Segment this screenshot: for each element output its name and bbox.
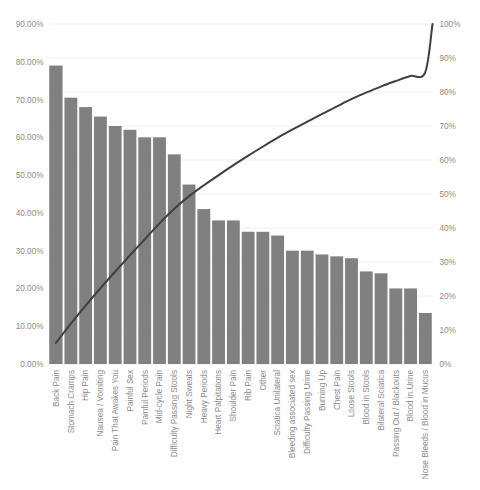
category-label: Night Sweats [185, 370, 194, 418]
y-axis-tick-label: 10.00% [16, 322, 44, 331]
category-label: Heavy Periods [200, 370, 209, 423]
bar [197, 209, 210, 364]
category-label: Painful Periods [141, 370, 150, 425]
bar [374, 273, 387, 364]
bar [212, 220, 225, 364]
category-label: Heart Palpitations [214, 370, 223, 435]
y2-axis-tick-label: 0% [440, 360, 452, 369]
category-label: Bleeding associated sex [288, 370, 297, 458]
bar [241, 232, 254, 364]
y-axis-tick-label: 80.00% [16, 58, 44, 67]
pareto-chart: 0.00%10.00%20.00%30.00%40.00%50.00%60.00… [0, 0, 480, 490]
y-axis-tick-label: 50.00% [16, 171, 44, 180]
y-axis-tick-label: 30.00% [16, 247, 44, 256]
y-axis-tick-label: 90.00% [16, 20, 44, 29]
category-label: Nausea / Vomiting [96, 370, 105, 437]
bar [330, 256, 343, 364]
y2-axis-tick-label: 40% [440, 224, 456, 233]
category-label: Other [259, 370, 268, 391]
bar [300, 251, 313, 364]
y2-axis-tick-label: 50% [440, 190, 456, 199]
category-label: Shoulder Pain [229, 370, 238, 422]
category-label: Pain That Awakes You [111, 370, 120, 452]
category-label: Mid-cycle Pain [155, 370, 164, 424]
y2-axis-tick-label: 80% [440, 88, 456, 97]
category-label: Rib Pain [244, 370, 253, 401]
bar [359, 271, 372, 364]
y2-axis-tick-label: 60% [440, 156, 456, 165]
y-axis-tick-label: 70.00% [16, 96, 44, 105]
category-label: Chest Pain [333, 370, 342, 410]
y2-axis-tick-label: 10% [440, 326, 456, 335]
bar [138, 137, 151, 364]
bar [286, 251, 299, 364]
category-label: Blood in Urine [406, 370, 415, 422]
bar [167, 154, 180, 364]
y2-axis-tick-label: 100% [440, 20, 461, 29]
category-label: Stomach Cramps [67, 370, 76, 433]
bar [94, 117, 107, 364]
category-label: Burning Up [318, 370, 327, 411]
category-label: Difficulty Passing Urine [303, 370, 312, 454]
bar [345, 258, 358, 364]
bar [182, 185, 195, 364]
category-label: Blood in Stools [362, 370, 371, 425]
bar [256, 232, 269, 364]
y2-axis-tick-label: 70% [440, 122, 456, 131]
category-label: Loose Stools [347, 370, 356, 417]
bar [226, 220, 239, 364]
bar [79, 107, 92, 364]
y-axis-tick-label: 20.00% [16, 284, 44, 293]
category-label: Passing Out / Blackouts [392, 370, 401, 457]
bar [389, 288, 402, 364]
y-axis-tick-label: 60.00% [16, 133, 44, 142]
chart-canvas: 0.00%10.00%20.00%30.00%40.00%50.00%60.00… [0, 0, 480, 490]
category-label: Sciatica Unilateral [273, 370, 282, 436]
category-label: Bilateral Sciatica [377, 370, 386, 431]
y2-axis-tick-label: 30% [440, 258, 456, 267]
bar [49, 66, 62, 364]
category-label: Back Pain [52, 370, 61, 407]
bar [271, 236, 284, 364]
category-label: Difficulty Passing Stools [170, 370, 179, 457]
bar [404, 288, 417, 364]
bar [123, 130, 136, 364]
bar [153, 137, 166, 364]
category-label: Hip Pain [81, 370, 90, 401]
bar [418, 313, 431, 364]
y2-axis-tick-label: 20% [440, 292, 456, 301]
bar [108, 126, 121, 364]
category-label: Nose Bleeds / Blood in Mucus [421, 370, 430, 479]
bar [315, 254, 328, 364]
y-axis-tick-label: 40.00% [16, 209, 44, 218]
y-axis-tick-label: 0.00% [20, 360, 43, 369]
category-label: Painful Sex [126, 370, 135, 411]
y2-axis-tick-label: 90% [440, 54, 456, 63]
